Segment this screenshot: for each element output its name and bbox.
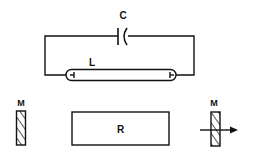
mirror-right-label: M [210, 98, 218, 108]
laser-diagram: C L M R M [0, 0, 253, 159]
mirror-left-label: M [17, 98, 25, 108]
flash-tube-icon [66, 70, 176, 81]
mirror-left-icon [17, 111, 26, 145]
tube-label: L [89, 57, 95, 68]
capacitor-icon [118, 28, 127, 45]
rod-label: R [117, 124, 125, 135]
capacitor-label: C [119, 10, 126, 21]
mirror-right-icon [211, 112, 220, 146]
